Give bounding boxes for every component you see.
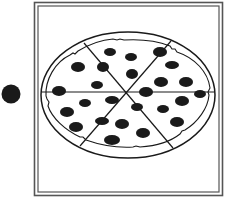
pizza [41, 32, 215, 158]
pepperoni [104, 48, 116, 56]
pepperoni [139, 87, 153, 97]
pepperoni [175, 96, 189, 106]
pizza-illustration [0, 0, 232, 205]
pepperoni [52, 86, 66, 96]
pepperoni [91, 81, 103, 89]
pepperoni [97, 62, 109, 72]
pepperoni [179, 77, 193, 87]
pepperoni [60, 107, 74, 117]
pepperoni [125, 53, 137, 61]
pepperoni [131, 103, 143, 111]
pepperoni [157, 105, 169, 113]
pepperoni [126, 69, 138, 79]
pepperoni [165, 61, 179, 69]
pepperoni [154, 77, 168, 87]
pepperoni [71, 62, 85, 72]
pepperoni [170, 117, 184, 127]
pepperoni [136, 128, 150, 138]
pepperoni [69, 122, 83, 132]
pepperoni [104, 135, 120, 145]
pepperoni [105, 96, 119, 104]
pepperoni [115, 119, 129, 129]
pepperoni [153, 47, 167, 57]
bullet-dot [2, 85, 21, 104]
pepperoni [194, 90, 206, 98]
pepperoni [79, 99, 91, 107]
pepperoni [95, 117, 109, 125]
